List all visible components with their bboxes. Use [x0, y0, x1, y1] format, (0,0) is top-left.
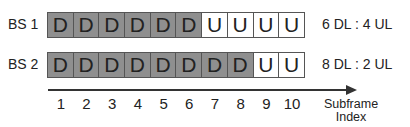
axis-label: Subframe Index [320, 98, 382, 124]
subframe-cell: D [47, 12, 74, 38]
bs2-ratio: 8 DL : 2 UL [322, 56, 392, 72]
tick-label: 8 [228, 95, 254, 112]
subframe-cell: U [278, 52, 305, 78]
subframe-cell: D [47, 52, 74, 78]
tick-label: 10 [279, 95, 305, 112]
axis-arrow-icon [346, 85, 357, 95]
bs1-ratio: 6 DL : 4 UL [322, 16, 392, 32]
subframe-cell: D [124, 52, 151, 78]
subframe-cell: D [201, 52, 228, 78]
subframe-cell: D [73, 12, 100, 38]
subframe-cell: D [227, 52, 254, 78]
tick-label: 5 [151, 95, 177, 112]
subframe-cell: U [227, 12, 254, 38]
tick-label: 1 [48, 95, 74, 112]
bs2-label: BS 2 [8, 56, 46, 72]
tick-label: 3 [99, 95, 125, 112]
tick-label: 2 [74, 95, 100, 112]
tick-label: 9 [254, 95, 280, 112]
bs1-label: BS 1 [8, 16, 46, 32]
subframe-cell: U [201, 12, 228, 38]
subframe-cell: U [253, 12, 280, 38]
subframe-cell: D [98, 52, 125, 78]
bs2-subframe-row: DDDDDDDDUU [48, 52, 305, 77]
tick-label: 6 [176, 95, 202, 112]
subframe-cell: D [150, 12, 177, 38]
subframe-cell: D [175, 52, 202, 78]
bs1-subframe-row: DDDDDDUUUU [48, 12, 305, 37]
subframe-cell: U [253, 52, 280, 78]
subframe-cell: D [98, 12, 125, 38]
subframe-axis-line [48, 89, 348, 91]
axis-label-line2: Index [320, 111, 382, 124]
subframe-cell: D [175, 12, 202, 38]
subframe-cell: D [124, 12, 151, 38]
subframe-cell: D [73, 52, 100, 78]
subframe-ticks: 12345678910 [48, 95, 305, 112]
subframe-cell: U [278, 12, 305, 38]
tick-label: 4 [125, 95, 151, 112]
tick-label: 7 [202, 95, 228, 112]
subframe-cell: D [150, 52, 177, 78]
